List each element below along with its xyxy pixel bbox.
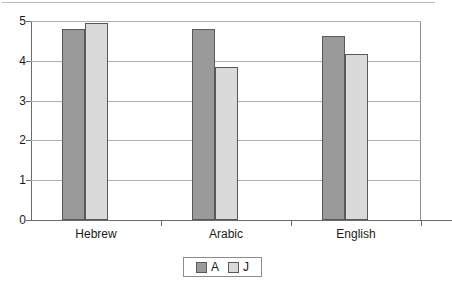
y-tick-1 (26, 180, 31, 181)
legend-swatch-a-icon (196, 262, 207, 273)
bar-hebrew-j (85, 23, 108, 220)
y-tick-3 (26, 101, 31, 102)
x-tick-0 (161, 221, 162, 226)
chart-legend: A J (183, 257, 262, 277)
bar-english-a (322, 36, 345, 220)
bar-arabic-a (192, 29, 215, 220)
y-tick-5 (26, 21, 31, 22)
plot-right-border (420, 21, 421, 221)
bar-arabic-j (215, 67, 238, 220)
bar-hebrew-a (62, 29, 85, 220)
y-axis-line (31, 21, 32, 221)
x-tick-1 (291, 221, 292, 226)
legend-swatch-j-icon (228, 262, 239, 273)
x-axis-label-arabic: Arabic (161, 228, 291, 241)
x-axis-label-english: English (291, 228, 421, 241)
y-axis-label-2: 2 (14, 134, 26, 146)
bar-english-j (345, 54, 368, 220)
y-axis-label-1: 1 (14, 174, 26, 186)
y-tick-0 (26, 220, 31, 221)
x-axis-label-hebrew: Hebrew (31, 228, 161, 241)
page-top-rule (2, 2, 435, 3)
x-axis-line (27, 220, 452, 221)
legend-label-a: A (211, 261, 219, 273)
x-tick-2 (421, 221, 422, 226)
plot-area (31, 21, 421, 220)
y-tick-4 (26, 61, 31, 62)
y-tick-2 (26, 140, 31, 141)
legend-item-a: A (196, 261, 219, 273)
y-axis-label-3: 3 (14, 95, 26, 107)
legend-label-j: J (243, 261, 249, 273)
gridline-5 (31, 21, 421, 22)
y-axis-label-5: 5 (14, 15, 26, 27)
legend-item-j: J (228, 261, 249, 273)
y-axis-label-4: 4 (14, 55, 26, 67)
y-axis-label-0: 0 (14, 214, 26, 226)
